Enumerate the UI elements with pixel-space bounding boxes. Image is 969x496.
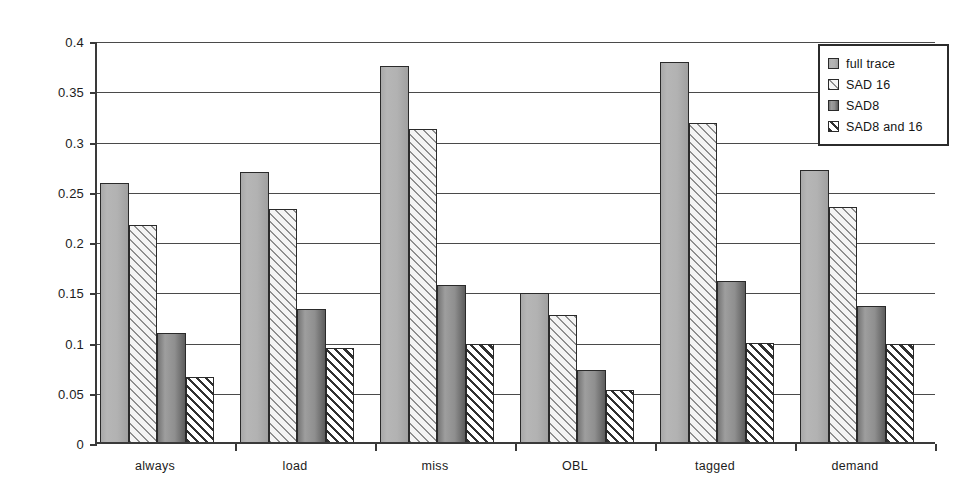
bar — [240, 172, 269, 442]
x-axis-category-label: demand — [832, 459, 879, 473]
legend-swatch-icon — [828, 100, 839, 111]
bar — [857, 306, 886, 442]
bar — [660, 62, 689, 442]
y-axis-tick-label: 0.1 — [65, 336, 84, 351]
x-axis-tick — [935, 444, 937, 451]
bar-group — [240, 42, 354, 442]
bar — [409, 129, 438, 442]
bar — [129, 225, 158, 442]
x-axis-category-label: always — [135, 459, 175, 473]
y-axis-tick-label: 0.3 — [65, 135, 84, 150]
y-axis-tick — [90, 344, 97, 346]
bar — [157, 333, 186, 442]
bar — [520, 293, 549, 442]
legend-item: full trace — [828, 53, 941, 74]
legend-item: SAD8 — [828, 95, 941, 116]
y-axis-labels: 0.40.350.30.250.20.150.10.050 — [26, 42, 84, 444]
y-axis-tick — [90, 394, 97, 396]
bar — [437, 285, 466, 442]
bar-chart: 0.40.350.30.250.20.150.10.050 alwaysload… — [0, 0, 969, 496]
x-axis-category-label: load — [283, 459, 308, 473]
bar-group — [660, 42, 774, 442]
y-axis-tick — [90, 293, 97, 295]
bar — [746, 343, 775, 442]
legend-label: SAD8 and 16 — [846, 120, 923, 134]
bar — [186, 377, 215, 442]
bar — [549, 315, 578, 442]
y-axis-tick-label: 0.2 — [65, 236, 84, 251]
y-axis-tick — [90, 444, 97, 446]
bar — [829, 207, 858, 442]
bar — [326, 348, 355, 442]
legend-swatch-icon — [828, 79, 839, 90]
bar-group — [100, 42, 214, 442]
x-axis-tick — [235, 444, 237, 451]
x-axis-tick — [795, 444, 797, 451]
x-axis-tick — [375, 444, 377, 451]
legend-item: SAD8 and 16 — [828, 116, 941, 137]
y-axis-tick-label: 0 — [77, 437, 84, 452]
x-axis-tick — [655, 444, 657, 451]
x-axis-category-label: miss — [422, 459, 449, 473]
legend-label: SAD8 — [846, 99, 879, 113]
y-axis-tick-label: 0.25 — [58, 185, 84, 200]
legend-swatch-icon — [828, 121, 839, 132]
plot-area — [95, 42, 935, 444]
legend-swatch-icon — [828, 58, 839, 69]
bar — [577, 370, 606, 442]
legend-label: full trace — [846, 57, 895, 71]
y-axis-tick — [90, 42, 97, 44]
bar — [689, 123, 718, 442]
y-axis-tick — [90, 243, 97, 245]
y-axis-tick-label: 0.35 — [58, 85, 84, 100]
y-axis-tick — [90, 143, 97, 145]
x-axis-category-label: OBL — [562, 459, 588, 473]
bar-group — [380, 42, 494, 442]
y-axis-tick-label: 0.15 — [58, 286, 84, 301]
bar — [466, 344, 495, 442]
bar-group — [520, 42, 634, 442]
y-axis-tick — [90, 193, 97, 195]
bar — [717, 281, 746, 442]
x-axis-category-label: tagged — [695, 459, 735, 473]
legend-item: SAD 16 — [828, 74, 941, 95]
y-axis-tick-label: 0.05 — [58, 386, 84, 401]
legend-label: SAD 16 — [846, 78, 890, 92]
x-axis-tick — [515, 444, 517, 451]
y-axis-tick — [90, 92, 97, 94]
bar — [269, 209, 298, 442]
bar — [886, 344, 915, 442]
bar — [100, 183, 129, 442]
bar — [380, 66, 409, 442]
bar — [297, 309, 326, 442]
legend: full traceSAD 16SAD8SAD8 and 16 — [818, 44, 949, 146]
y-axis-tick-label: 0.4 — [65, 35, 84, 50]
bar — [606, 390, 635, 442]
bar — [800, 170, 829, 442]
